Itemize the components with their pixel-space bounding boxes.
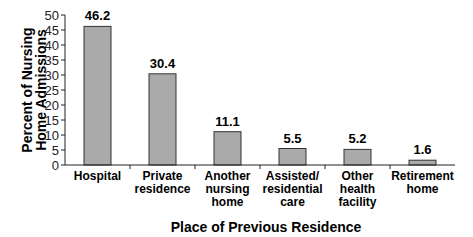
- x-tick-label: home: [406, 182, 438, 196]
- x-tick-label: Assisted/: [266, 169, 320, 183]
- x-tick-label: health: [340, 182, 375, 196]
- bar: [279, 149, 306, 166]
- x-tick-label: care: [280, 195, 305, 209]
- x-tick-label: residential: [262, 182, 322, 196]
- y-tick-label: 50: [45, 8, 59, 23]
- y-tick-label: 0: [52, 158, 59, 173]
- y-axis-label-line2: Home Admissions: [33, 29, 49, 151]
- bar: [84, 26, 111, 165]
- bar-value-label: 30.4: [150, 56, 176, 71]
- bar-value-label: 5.5: [283, 131, 301, 146]
- bar-value-label: 1.6: [413, 142, 431, 157]
- bar: [214, 132, 241, 165]
- x-axis-label: Place of Previous Residence: [171, 219, 362, 235]
- x-tick-label: Private: [142, 169, 182, 183]
- bar: [149, 74, 176, 165]
- x-tick-label: Hospital: [74, 169, 121, 183]
- bar-value-label: 11.1: [215, 114, 240, 129]
- x-tick-label: residence: [134, 182, 190, 196]
- x-tick-label: Retirement: [391, 169, 454, 183]
- x-tick-label: home: [211, 195, 243, 209]
- bar: [409, 160, 436, 165]
- bar-value-label: 5.2: [348, 131, 366, 146]
- bar: [344, 149, 371, 165]
- bar-value-label: 46.2: [85, 8, 110, 23]
- x-tick-label: facility: [338, 195, 376, 209]
- x-tick-label: nursing: [206, 182, 250, 196]
- x-tick-label: Another: [205, 169, 251, 183]
- x-axis: HospitalPrivateresidenceAnothernursingho…: [65, 165, 455, 209]
- x-tick-label: Other: [341, 169, 373, 183]
- bars: 46.230.411.15.55.21.6: [84, 8, 436, 165]
- y-tick-label: 5: [52, 143, 59, 158]
- bar-chart: 05101520253035404550 46.230.411.15.55.21…: [0, 0, 473, 237]
